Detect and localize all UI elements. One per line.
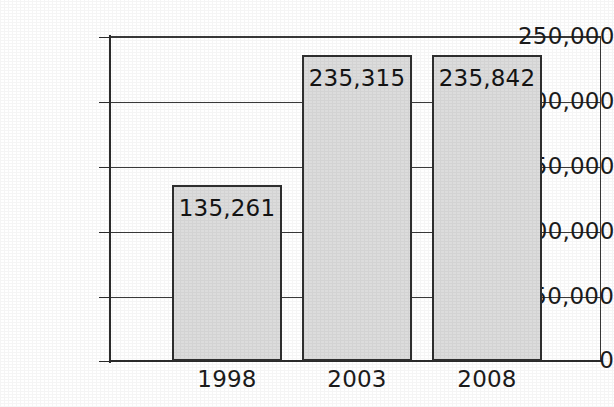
bar-value-label: 135,261 bbox=[174, 196, 280, 221]
x-tick-label-2003: 2003 bbox=[302, 368, 412, 391]
y-tick-mark-50000 bbox=[99, 297, 110, 298]
bar-2008: 235,842 bbox=[432, 55, 542, 361]
bar-value-label: 235,315 bbox=[304, 66, 410, 91]
y-tick-mark-200000 bbox=[99, 102, 110, 103]
y-tick-mark-0 bbox=[99, 361, 110, 362]
y-tick-mark-250000 bbox=[99, 37, 110, 38]
y-tick-label: 250,000 bbox=[518, 25, 614, 48]
y-tick-mark-150000 bbox=[99, 167, 110, 168]
y-axis-line bbox=[109, 35, 111, 363]
x-tick-label-2008: 2008 bbox=[432, 368, 542, 391]
plot-frame-right bbox=[600, 36, 601, 362]
bar-chart: 250,000200,000150,000100,00050,0000 135,… bbox=[0, 0, 614, 407]
bar-value-label: 235,842 bbox=[434, 66, 540, 91]
x-tick-label-1998: 1998 bbox=[172, 368, 282, 391]
bar-1998: 135,261 bbox=[172, 185, 282, 361]
y-tick-mark-100000 bbox=[99, 232, 110, 233]
bar-2003: 235,315 bbox=[302, 55, 412, 361]
